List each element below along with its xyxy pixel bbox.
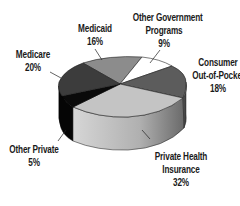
- label-medicare: Medicare 20%: [14, 48, 53, 74]
- label-medicaid-pct: 16%: [76, 35, 115, 48]
- label-private-insurance-line2: Insurance: [150, 163, 212, 176]
- label-other-government-line2: Programs: [133, 24, 195, 37]
- leader-other-private: [58, 130, 66, 141]
- label-medicare-pct: 20%: [14, 61, 53, 74]
- label-private-insurance-line1: Private Health: [150, 150, 212, 163]
- label-private-insurance: Private Health Insurance 32%: [150, 150, 212, 189]
- label-other-private: Other Private 5%: [9, 143, 59, 169]
- label-other-government-pct: 9%: [133, 37, 195, 50]
- label-consumer: Consumer Out-of-Pocket 18%: [192, 56, 240, 95]
- label-medicare-name: Medicare: [14, 48, 53, 61]
- label-other-private-pct: 5%: [9, 156, 59, 169]
- label-other-government-line1: Other Government: [133, 11, 195, 24]
- label-consumer-line1: Consumer: [192, 56, 240, 69]
- label-medicaid-name: Medicaid: [76, 22, 115, 35]
- label-consumer-pct: 18%: [192, 82, 240, 95]
- label-private-insurance-pct: 32%: [150, 176, 212, 189]
- label-other-government: Other Government Programs 9%: [133, 11, 195, 50]
- label-consumer-line2: Out-of-Pocket: [192, 69, 240, 82]
- label-other-private-name: Other Private: [9, 143, 59, 156]
- label-medicaid: Medicaid 16%: [76, 22, 115, 48]
- leader-medicaid: [95, 49, 102, 60]
